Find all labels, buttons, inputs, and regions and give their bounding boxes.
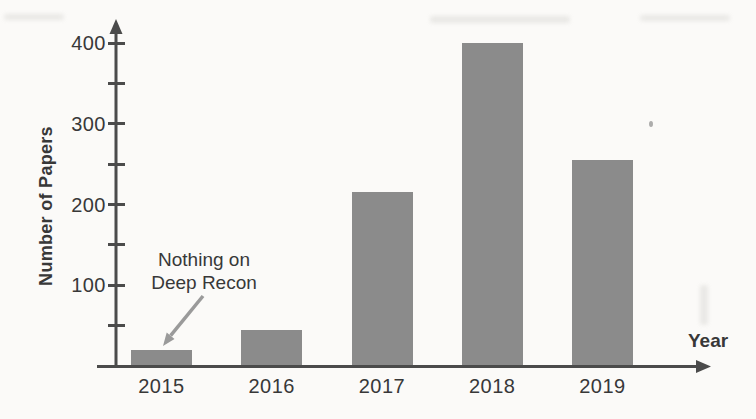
x-axis-arrowhead-icon bbox=[696, 360, 711, 373]
scanned-bar-chart: 20152016201720182019100200300400 Number … bbox=[0, 0, 756, 419]
annotation-callout: Nothing on Deep Recon bbox=[134, 248, 274, 294]
axes-layer bbox=[0, 0, 756, 419]
annotation-line-2: Deep Recon bbox=[134, 271, 274, 294]
y-axis-arrowhead-icon bbox=[110, 19, 123, 34]
y-axis-title: Number of Papers bbox=[36, 126, 57, 286]
x-axis-title: Year bbox=[688, 330, 728, 352]
annotation-arrow-line bbox=[171, 296, 203, 336]
annotation-line-1: Nothing on bbox=[134, 248, 274, 271]
